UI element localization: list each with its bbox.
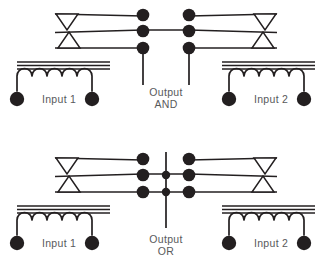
and-left-contact-node-mid	[137, 25, 150, 38]
and-right-relay-contacts	[189, 14, 277, 48]
or-right-terminal-b	[297, 236, 311, 250]
or-right-terminal-a	[222, 236, 236, 250]
or-gate-group: Input 1 Input 2 Output OR	[10, 152, 315, 257]
and-right-terminal-b	[297, 92, 311, 106]
or-left-contact-node-top	[137, 153, 150, 166]
and-left-armature-up-icon	[58, 32, 80, 48]
or-right-contact-node-bottom	[183, 186, 196, 199]
and-left-contact-node-top	[137, 9, 150, 22]
or-output-label-line1: Output	[149, 233, 182, 245]
or-right-contact-node-top	[183, 153, 196, 166]
and-right-contact-node-top	[183, 9, 196, 22]
and-output-label-line2: AND	[154, 98, 177, 110]
and-left-terminal-b	[85, 92, 99, 106]
and-input-right-label: Input 2	[254, 93, 288, 105]
or-left-contact-node-bottom	[137, 186, 150, 199]
and-right-contact-node-mid	[183, 25, 196, 38]
and-left-coil-winding	[17, 69, 92, 91]
or-left-coil-winding	[17, 213, 92, 236]
or-right-contact-node-mid	[183, 169, 196, 182]
or-right-relay-contacts	[189, 158, 277, 192]
and-output-label-line1: Output	[149, 86, 182, 98]
and-right-coil-winding	[229, 69, 304, 91]
relay-logic-diagram: Input 1 Input 2 Output AND	[0, 0, 332, 274]
or-left-contact-node-mid	[137, 169, 150, 182]
and-left-armature-down-icon	[56, 14, 78, 30]
or-bus-junction-mid	[162, 171, 170, 179]
or-right-armature-up-icon	[252, 176, 274, 192]
or-left-armature-up-icon	[58, 176, 80, 192]
and-right-armature-down-icon	[254, 14, 276, 30]
or-right-armature-down-icon	[254, 158, 276, 174]
or-output-label-line2: OR	[158, 245, 174, 257]
and-left-relay-contacts	[55, 14, 143, 48]
and-right-terminal-a	[222, 92, 236, 106]
or-input-right-label: Input 2	[254, 237, 288, 249]
and-gate-group: Input 1 Input 2 Output AND	[10, 9, 315, 110]
or-left-terminal-b	[85, 236, 99, 250]
or-input-left-label: Input 1	[42, 237, 76, 249]
or-left-relay-contacts	[55, 158, 143, 192]
and-input-left-label: Input 1	[42, 93, 76, 105]
or-right-coil-winding	[229, 213, 304, 236]
and-right-armature-up-icon	[252, 32, 274, 48]
and-left-terminal-a	[10, 92, 24, 106]
or-left-terminal-a	[10, 236, 24, 250]
or-bus-junction-bottom	[162, 188, 170, 196]
or-left-armature-down-icon	[56, 158, 78, 174]
schematic-canvas: Input 1 Input 2 Output AND	[0, 0, 332, 274]
